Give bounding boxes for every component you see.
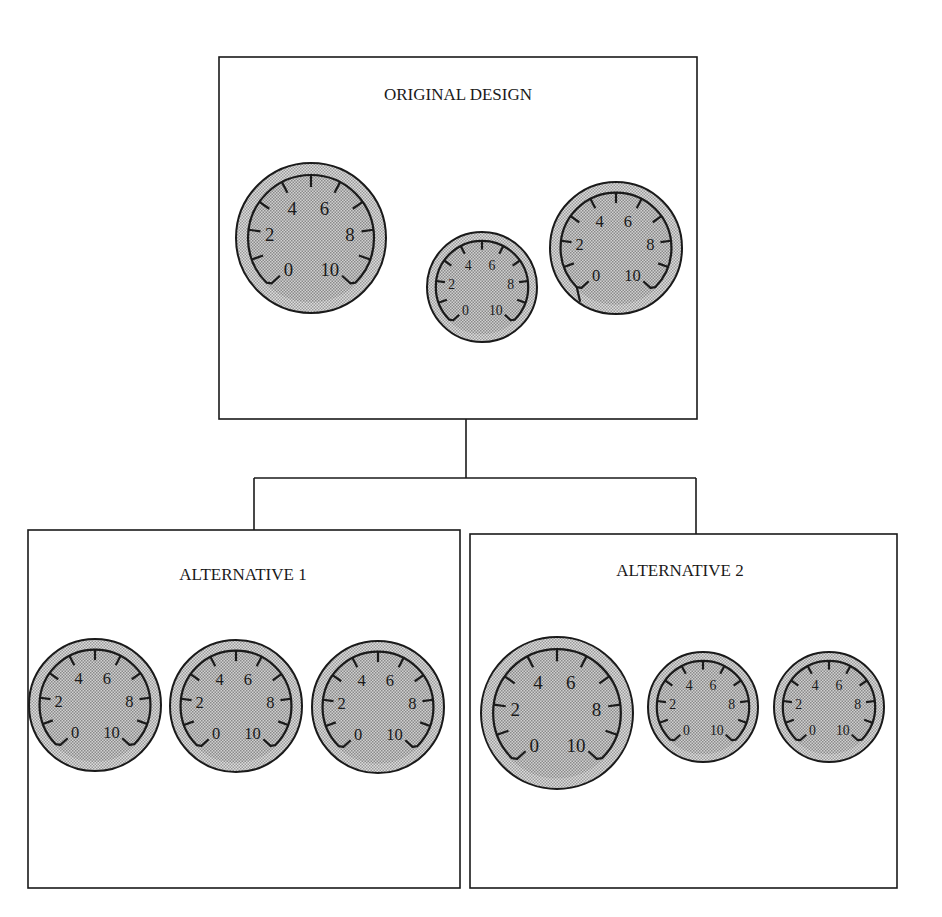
gauge-scale-label: 4 [74,669,82,688]
gauge-icon: 0246810 [550,182,682,314]
gauge-scale-label: 8 [854,697,861,712]
gauge-scale-label: 0 [809,723,816,738]
gauge-scale-label: 8 [592,699,602,720]
gauge-icon: 0246810 [481,637,633,789]
gauge-icon: 0246810 [427,232,537,342]
gauge-scale-label: 0 [462,303,469,318]
box-alternative-2: ALTERNATIVE 2024681002468100246810 [470,534,897,888]
gauge-scale-label: 4 [595,212,603,231]
gauge-scale-label: 8 [408,694,416,713]
gauge-scale-label: 4 [686,678,693,693]
box-title: ORIGINAL DESIGN [384,85,532,104]
gauge-scale-label: 2 [669,697,676,712]
gauge-scale-label: 4 [357,671,365,690]
gauge-scale-label: 6 [320,198,329,219]
gauge-scale-label: 10 [386,725,403,744]
gauge-scale-label: 2 [576,235,584,254]
gauge-scale-label: 8 [125,692,133,711]
gauge-scale-label: 2 [795,697,802,712]
gauge-icon: 0246810 [170,640,302,772]
gauge-scale-label: 8 [728,697,735,712]
gauge-scale-label: 6 [244,670,252,689]
gauge-scale-label: 10 [103,723,120,742]
gauge-scale-label: 0 [284,259,293,280]
design-alternatives-diagram: ORIGINAL DESIGN024681002468100246810ALTE… [0,0,942,917]
gauge-scale-label: 6 [566,672,576,693]
gauge-scale-label: 8 [646,235,654,254]
gauge-scale-label: 10 [489,303,503,318]
gauge-scale-label: 2 [510,699,520,720]
gauge-scale-label: 8 [345,224,354,245]
gauge-scale-label: 4 [533,672,543,693]
box-alternative-1: ALTERNATIVE 1024681002468100246810 [28,530,460,888]
gauge-scale-label: 2 [55,692,63,711]
gauge-icon: 0246810 [774,652,884,762]
gauge-scale-label: 10 [710,723,724,738]
design-boxes: ORIGINAL DESIGN024681002468100246810ALTE… [28,57,897,888]
gauge-scale-label: 0 [354,725,362,744]
gauge-scale-label: 6 [624,212,632,231]
box-title: ALTERNATIVE 2 [616,561,743,580]
gauge-scale-label: 6 [488,258,495,273]
gauge-scale-label: 8 [266,693,274,712]
gauge-scale-label: 10 [836,723,850,738]
gauge-scale-label: 10 [320,259,339,280]
gauge-scale-label: 6 [709,678,716,693]
gauge-icon: 0246810 [312,641,444,773]
gauge-scale-label: 6 [386,671,394,690]
gauge-scale-label: 10 [244,724,261,743]
gauge-icon: 0246810 [648,652,758,762]
gauge-scale-label: 10 [624,266,641,285]
gauge-scale-label: 2 [196,693,204,712]
gauge-scale-label: 8 [507,277,514,292]
gauge-scale-label: 6 [103,669,111,688]
gauge-scale-label: 4 [215,670,223,689]
gauge-scale-label: 4 [812,678,819,693]
gauge-icon: 0246810 [29,639,161,771]
gauge-scale-label: 0 [529,735,539,756]
box-title: ALTERNATIVE 1 [179,565,306,584]
box-original: ORIGINAL DESIGN024681002468100246810 [219,57,697,419]
gauge-scale-label: 2 [338,694,346,713]
connector-lines [254,419,696,534]
gauge-scale-label: 2 [265,224,274,245]
gauge-scale-label: 0 [212,724,220,743]
gauge-scale-label: 0 [592,266,600,285]
gauge-scale-label: 0 [71,723,79,742]
gauge-scale-label: 0 [683,723,690,738]
gauge-scale-label: 2 [448,277,455,292]
gauge-icon: 0246810 [236,163,386,313]
gauge-scale-label: 4 [465,258,472,273]
gauge-scale-label: 6 [835,678,842,693]
gauge-scale-label: 10 [567,735,586,756]
gauge-scale-label: 4 [288,198,298,219]
